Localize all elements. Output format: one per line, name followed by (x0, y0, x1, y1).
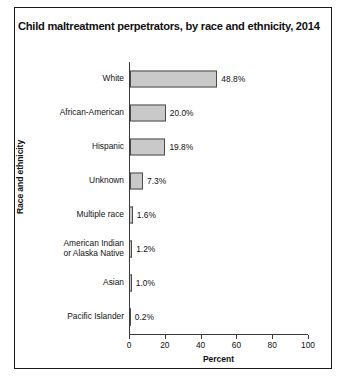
bar-category-label: Asian (28, 278, 124, 288)
bar (130, 309, 131, 326)
bar-row: American Indianor Alaska Native1.2% (0, 232, 342, 266)
x-tick (308, 335, 309, 339)
bar-row: African-American20.0% (0, 96, 342, 130)
bar-category-label: American Indianor Alaska Native (28, 239, 124, 258)
x-tick-label: 20 (150, 340, 180, 350)
bar-category-label: Multiple race (28, 210, 124, 220)
x-tick-label: 40 (186, 340, 216, 350)
bar-category-label: White (28, 74, 124, 84)
bar-row: Asian1.0% (0, 266, 342, 300)
bar-category-label: Unknown (28, 176, 124, 186)
bar-category-label: African-American (28, 108, 124, 118)
bar-value-label: 1.0% (136, 278, 155, 288)
x-tick-label: 60 (221, 340, 251, 350)
bar-row: White48.8% (0, 62, 342, 96)
bar (130, 71, 217, 88)
x-tick-label: 100 (293, 340, 323, 350)
bar-value-label: 1.2% (136, 244, 155, 254)
bar-row: Multiple race1.6% (0, 198, 342, 232)
bar-row: Pacific Islander0.2% (0, 300, 342, 334)
bar-category-label: Pacific Islander (28, 312, 124, 322)
bar (130, 105, 166, 122)
plot-area: Race and ethnicity 020406080100 Percent … (0, 0, 342, 376)
x-tick (129, 335, 130, 339)
bar (130, 173, 143, 190)
bar-value-label: 20.0% (170, 108, 194, 118)
bar (130, 139, 165, 156)
chart-figure: Child maltreatment perpetrators, by race… (0, 0, 342, 376)
bar (130, 275, 132, 292)
x-tick (165, 335, 166, 339)
x-tick-label: 0 (114, 340, 144, 350)
x-tick (201, 335, 202, 339)
x-axis-label: Percent (129, 354, 308, 364)
bar-row: Unknown7.3% (0, 164, 342, 198)
bar-row: Hispanic19.8% (0, 130, 342, 164)
bar (130, 207, 133, 224)
bar-category-label: Hispanic (28, 142, 124, 152)
x-axis-line (129, 334, 308, 335)
x-tick-label: 80 (257, 340, 287, 350)
bar-value-label: 7.3% (147, 176, 166, 186)
bar-value-label: 48.8% (221, 74, 245, 84)
bar-value-label: 1.6% (137, 210, 156, 220)
bar (130, 241, 132, 258)
bar-value-label: 0.2% (135, 312, 154, 322)
bar-value-label: 19.8% (169, 142, 193, 152)
x-tick (272, 335, 273, 339)
x-tick (236, 335, 237, 339)
